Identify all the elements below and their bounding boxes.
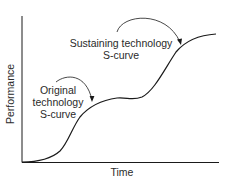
y-axis-label: Performance bbox=[4, 64, 16, 124]
original-line1: Original bbox=[28, 84, 88, 96]
original-line3: S-curve bbox=[28, 108, 88, 120]
original-annotation: Original technology S-curve bbox=[28, 84, 88, 120]
x-axis-label: Time bbox=[102, 166, 142, 178]
sustaining-annotation: Sustaining technology S-curve bbox=[62, 37, 180, 61]
original-arrowhead-icon bbox=[90, 96, 95, 102]
original-line2: technology bbox=[28, 96, 88, 108]
sustaining-line2: S-curve bbox=[62, 49, 180, 61]
sustaining-line1: Sustaining technology bbox=[62, 37, 180, 49]
